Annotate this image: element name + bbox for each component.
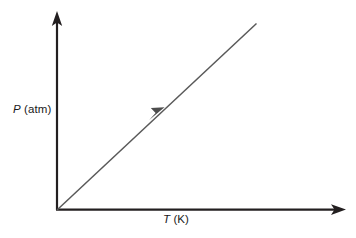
line-direction-arrowhead (149, 107, 164, 120)
x-axis-label: T (K) (163, 213, 189, 225)
chart-figure: P (atm) T (K) (0, 0, 356, 238)
x-axis-unit: (K) (173, 213, 189, 225)
y-axis-symbol: P (13, 103, 21, 115)
data-line (57, 24, 257, 211)
y-axis-unit: (atm) (24, 103, 51, 115)
plot-area (0, 0, 356, 238)
y-axis-label: P (atm) (13, 103, 51, 115)
